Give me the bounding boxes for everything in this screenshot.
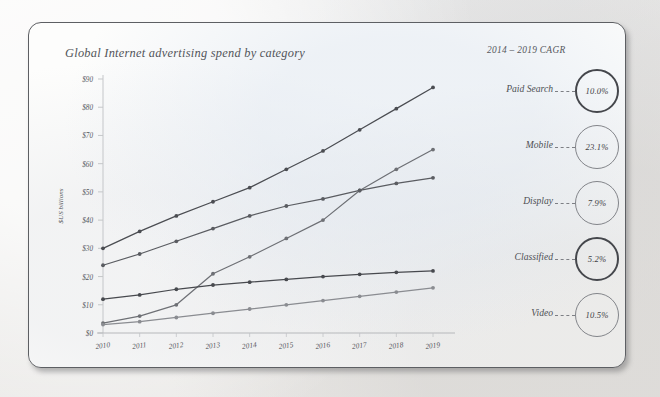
data-point bbox=[394, 270, 398, 274]
data-point bbox=[138, 230, 142, 234]
data-point bbox=[284, 303, 288, 307]
y-axis-tick-label: $20 bbox=[82, 274, 93, 282]
data-point bbox=[394, 167, 398, 171]
x-axis-tick-label: 2014 bbox=[241, 340, 257, 351]
data-point bbox=[174, 239, 178, 243]
data-point bbox=[101, 297, 105, 301]
data-point bbox=[394, 107, 398, 111]
y-axis-tick-label: $40 bbox=[82, 217, 93, 225]
data-point bbox=[211, 200, 215, 204]
y-axis-tick-label: $60 bbox=[82, 161, 93, 169]
data-point bbox=[321, 218, 325, 222]
x-axis-tick-label: 2018 bbox=[388, 340, 404, 351]
data-point bbox=[138, 293, 142, 297]
data-point bbox=[138, 320, 142, 324]
data-point bbox=[431, 269, 435, 273]
data-point bbox=[358, 294, 362, 298]
data-point bbox=[394, 182, 398, 186]
data-point bbox=[321, 149, 325, 153]
legend-category-label: Classified bbox=[515, 251, 553, 262]
data-point bbox=[284, 237, 288, 241]
legend-category-label: Mobile bbox=[526, 139, 553, 150]
chart-card: Global Internet advertising spend by cat… bbox=[28, 22, 626, 368]
legend-leader-line bbox=[555, 91, 575, 92]
cagr-legend: Paid Search10.0%Mobile23.1%Display7.9%Cl… bbox=[459, 69, 619, 349]
x-axis-tick-label: 2013 bbox=[205, 340, 221, 351]
data-point bbox=[248, 255, 252, 259]
legend-row-mobile[interactable]: Mobile23.1% bbox=[459, 125, 619, 171]
data-point bbox=[248, 307, 252, 311]
data-point bbox=[101, 263, 105, 267]
y-axis-tick-label: $0 bbox=[86, 330, 94, 338]
series-video bbox=[101, 286, 435, 326]
cagr-value-bubble: 5.2% bbox=[575, 237, 619, 281]
data-point bbox=[211, 227, 215, 231]
data-point bbox=[358, 189, 362, 193]
data-point bbox=[394, 290, 398, 294]
series-mobile bbox=[101, 148, 435, 325]
x-axis-tick-label: 2010 bbox=[95, 340, 111, 351]
legend-leader-line bbox=[555, 259, 575, 260]
series-display bbox=[101, 176, 435, 267]
legend-row-video[interactable]: Video10.5% bbox=[459, 293, 619, 339]
data-point bbox=[431, 148, 435, 152]
data-point bbox=[431, 286, 435, 290]
data-point bbox=[321, 299, 325, 303]
data-point bbox=[321, 275, 325, 279]
legend-category-label: Video bbox=[531, 307, 553, 318]
data-point bbox=[211, 311, 215, 315]
legend-row-display[interactable]: Display7.9% bbox=[459, 181, 619, 227]
data-point bbox=[248, 214, 252, 218]
data-point bbox=[358, 272, 362, 276]
legend-category-label: Paid Search bbox=[506, 83, 553, 94]
x-axis-tick-label: 2012 bbox=[168, 340, 184, 351]
data-point bbox=[211, 283, 215, 287]
data-point bbox=[174, 287, 178, 291]
y-axis-tick-label: $90 bbox=[82, 76, 93, 84]
data-point bbox=[174, 303, 178, 307]
x-axis-tick-label: 2017 bbox=[351, 340, 367, 351]
data-point bbox=[248, 186, 252, 190]
y-axis-tick-label: $70 bbox=[82, 132, 93, 140]
data-point bbox=[321, 197, 325, 201]
x-axis-tick-label: 2015 bbox=[278, 340, 294, 351]
data-point bbox=[248, 280, 252, 284]
cagr-value-bubble: 10.5% bbox=[575, 293, 619, 337]
legend-leader-line bbox=[555, 203, 575, 204]
data-point bbox=[358, 128, 362, 132]
data-point bbox=[138, 252, 142, 256]
series-paid-search bbox=[101, 86, 435, 251]
y-axis-tick-label: $50 bbox=[82, 189, 93, 197]
legend-leader-line bbox=[555, 147, 575, 148]
data-point bbox=[101, 246, 105, 250]
data-point bbox=[174, 316, 178, 320]
series-classified bbox=[101, 269, 435, 301]
cagr-value-bubble: 23.1% bbox=[575, 125, 619, 169]
data-point bbox=[138, 314, 142, 318]
data-point bbox=[284, 277, 288, 281]
x-axis-tick-label: 2011 bbox=[132, 340, 147, 351]
data-point bbox=[284, 167, 288, 171]
data-point bbox=[284, 204, 288, 208]
data-point bbox=[211, 272, 215, 276]
y-axis-tick-label: $80 bbox=[82, 104, 93, 112]
legend-row-paid-search[interactable]: Paid Search10.0% bbox=[459, 69, 619, 115]
cagr-value-bubble: 10.0% bbox=[575, 69, 619, 113]
legend-leader-line bbox=[555, 315, 575, 316]
y-axis-tick-label: $10 bbox=[82, 302, 93, 310]
data-point bbox=[431, 176, 435, 180]
data-point bbox=[174, 214, 178, 218]
cagr-value-bubble: 7.9% bbox=[575, 181, 619, 225]
legend-row-classified[interactable]: Classified5.2% bbox=[459, 237, 619, 283]
legend-category-label: Display bbox=[523, 195, 553, 206]
data-point bbox=[431, 86, 435, 90]
data-point bbox=[101, 323, 105, 327]
y-axis-tick-label: $30 bbox=[82, 245, 93, 253]
x-axis-tick-label: 2016 bbox=[315, 340, 331, 351]
x-axis-tick-label: 2019 bbox=[425, 340, 441, 351]
y-axis-title: $US billions bbox=[57, 188, 65, 223]
